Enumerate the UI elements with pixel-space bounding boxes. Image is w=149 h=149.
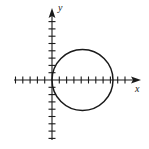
figure-container: x [0, 0, 149, 149]
y-axis-label: y [57, 2, 63, 13]
x-axis-group: x [14, 77, 141, 95]
coordinate-plane-graph: x [0, 0, 149, 149]
x-axis-label: x [134, 83, 140, 94]
y-axis-group: y [49, 2, 64, 140]
